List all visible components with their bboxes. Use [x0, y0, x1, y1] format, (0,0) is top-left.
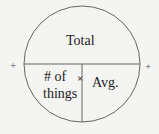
left-plus-marker: +: [10, 57, 16, 73]
average-label: Avg.: [92, 75, 119, 91]
count-label-line2: things: [43, 86, 77, 102]
multiply-operator: ×: [77, 70, 83, 86]
count-label-line1: # of: [44, 69, 66, 85]
circle-diagram: [0, 0, 159, 134]
top-label: Total: [66, 33, 95, 49]
right-plus-marker: +: [145, 58, 151, 74]
